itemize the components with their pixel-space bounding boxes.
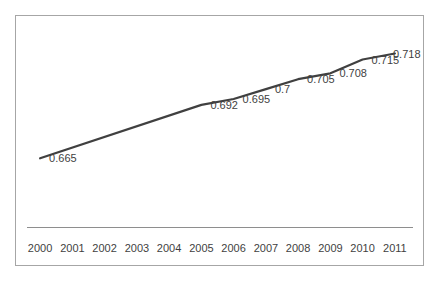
chart-figure: 0.6650.6920.6950.70.7050.7080.7150.718 2… — [0, 0, 438, 286]
x-axis-label: 2004 — [152, 242, 186, 254]
data-label: 0.7 — [275, 84, 290, 95]
x-axis-label: 2003 — [120, 242, 154, 254]
x-axis-label: 2002 — [88, 242, 122, 254]
x-axis-label: 2011 — [378, 242, 412, 254]
x-axis-label: 2000 — [23, 242, 57, 254]
data-label: 0.708 — [339, 68, 367, 79]
data-label: 0.692 — [210, 100, 238, 111]
x-axis-label: 2007 — [249, 242, 283, 254]
data-label: 0.665 — [49, 153, 77, 164]
data-label: 0.695 — [243, 94, 271, 105]
data-label: 0.718 — [393, 49, 421, 60]
x-axis-label: 2010 — [346, 242, 380, 254]
x-axis-label: 2006 — [217, 242, 251, 254]
x-axis-label: 2001 — [55, 242, 89, 254]
data-label: 0.705 — [307, 74, 335, 85]
x-axis-label: 2008 — [281, 242, 315, 254]
x-axis-label: 2005 — [184, 242, 218, 254]
x-axis-label: 2009 — [313, 242, 347, 254]
